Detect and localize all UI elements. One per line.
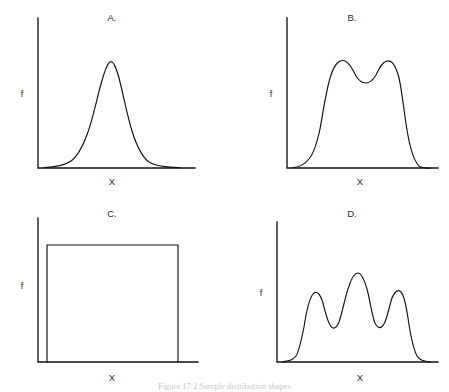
panel-b-axes (287, 18, 438, 168)
figure-caption: Figure 17.2 Sample distribution shapes (0, 381, 449, 392)
figure-grid: A. f X B. f X C. f X D. f (0, 0, 449, 392)
panel-c-y-label: f (21, 281, 24, 291)
panel-a-y-label: f (21, 89, 24, 99)
panel-c-title: C. (107, 208, 117, 219)
panel-b-curve (293, 61, 430, 169)
panel-d: D. f X (225, 196, 449, 392)
panel-b-title: B. (348, 12, 357, 23)
panel-c-axes (38, 218, 198, 362)
panel-b: B. f X (225, 0, 449, 196)
panel-d-curve (283, 273, 430, 362)
panel-c: C. f X (0, 196, 224, 392)
panel-b-x-label: X (357, 176, 364, 187)
panel-d-y-label: f (260, 288, 263, 298)
panel-a-title: A. (108, 12, 117, 23)
panel-a-x-label: X (109, 176, 116, 187)
panel-d-title: D. (347, 208, 357, 219)
panel-b-y-label: f (270, 89, 273, 99)
panel-a-curve (44, 62, 180, 168)
panel-c-curve (47, 245, 178, 362)
panel-a-axes (38, 18, 195, 168)
panel-a: A. f X (0, 0, 224, 196)
